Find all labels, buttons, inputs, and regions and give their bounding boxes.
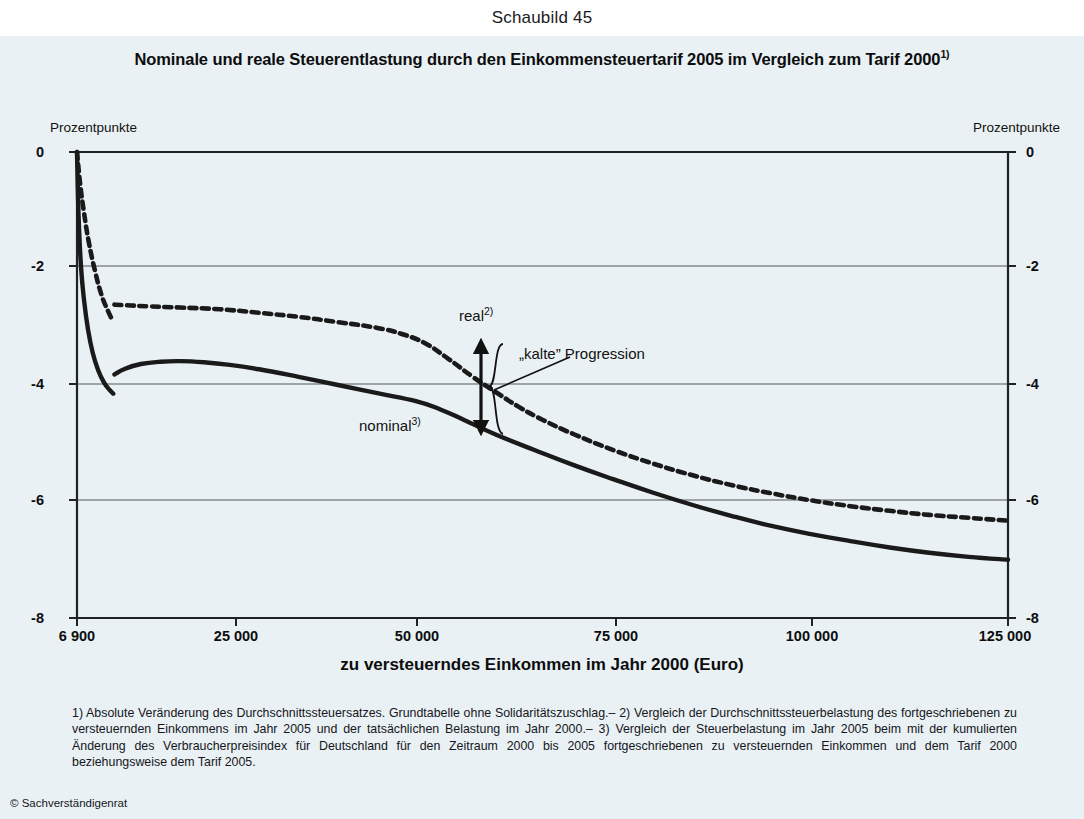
chart-plot-area	[0, 0, 1084, 819]
footnotes: 1) Absolute Veränderung des Durchschnitt…	[72, 705, 1017, 770]
axes	[69, 152, 1016, 626]
kalte-progression-callout	[481, 344, 570, 434]
page-root: Schaubild 45 Nominale und reale Steueren…	[0, 0, 1084, 819]
series-line-real	[77, 152, 1008, 521]
gridlines	[77, 266, 1008, 500]
series-group	[77, 152, 1008, 560]
callout-leader-line	[494, 357, 570, 390]
series-line-nominal	[77, 152, 1008, 560]
copyright-notice: © Sachverständigenrat	[10, 797, 127, 809]
